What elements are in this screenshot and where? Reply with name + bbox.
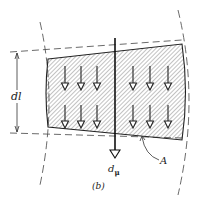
- moment-arrowhead-icon: [110, 150, 120, 158]
- diagram-canvas: [0, 0, 197, 201]
- dimension-label: dl: [11, 90, 22, 103]
- area-label: A: [160, 156, 167, 166]
- moment-label-sub: μ: [114, 168, 119, 177]
- moment-label: dμ: [108, 164, 120, 176]
- area-leader-line: [142, 137, 159, 160]
- diagram-figure: dl dμ A (b): [0, 0, 197, 201]
- figure-caption: (b): [92, 182, 105, 191]
